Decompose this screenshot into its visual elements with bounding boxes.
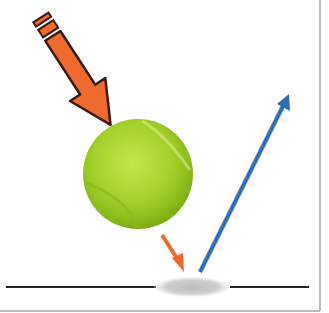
ball-bounce-diagram bbox=[0, 0, 329, 313]
rebound-arrow bbox=[200, 94, 290, 272]
impact-arrow bbox=[162, 235, 184, 272]
impact-shadow bbox=[154, 277, 230, 297]
incoming-force-arrow bbox=[23, 6, 128, 136]
diagram-frame bbox=[0, 0, 329, 313]
tennis-ball bbox=[83, 119, 193, 229]
